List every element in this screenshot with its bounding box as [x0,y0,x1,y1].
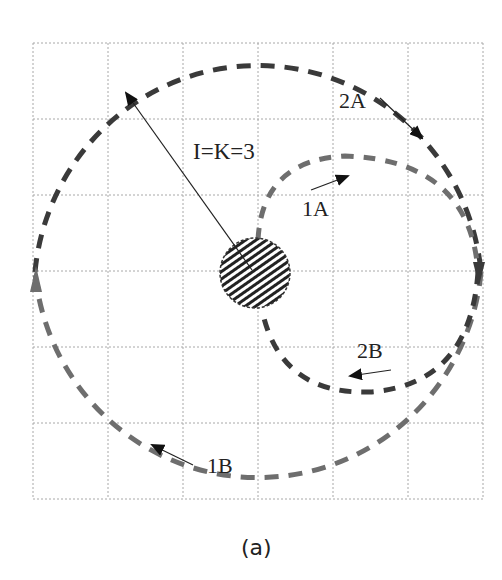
path-label-2a: 2A [339,90,366,112]
pointer-2a-arrow [380,98,422,138]
left-direction-arrow-icon [30,266,42,292]
radius-label: I=K=3 [193,140,255,163]
path-1a-inner-upper [258,156,478,272]
figure-caption: (a) [241,537,272,559]
pointer-1a-arrow [311,176,348,190]
radius-arrow [126,93,252,270]
path-label-1b: 1B [207,455,233,477]
path-label-2b: 2B [357,340,383,362]
source-hatched-circle [220,238,290,308]
path-label-1a: 1A [302,198,329,220]
pointer-2b-arrow [350,370,391,376]
diagram-canvas [0,0,502,580]
